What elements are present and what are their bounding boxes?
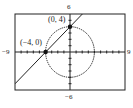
intersection-point-1 [43, 50, 47, 54]
xmin-label: −9 [2, 49, 9, 56]
intersection-point-2 [68, 25, 72, 29]
point-label-neg4-0: (−4, 0) [20, 39, 42, 47]
ymin-label: −6 [65, 94, 72, 101]
ymax-label: 6 [67, 4, 71, 11]
point-label-0-4: (0, 4) [48, 16, 65, 24]
xmax-label: 9 [127, 49, 131, 56]
graph-canvas [0, 0, 133, 108]
